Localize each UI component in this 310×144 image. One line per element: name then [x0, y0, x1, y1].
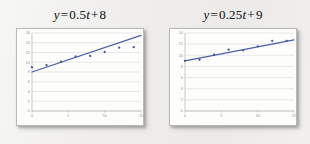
- figure-row: y=0.5t+8 0246810121416 051015 y=0.25t+9: [0, 0, 310, 144]
- data-point: [89, 55, 91, 57]
- ytick-label: 6: [28, 80, 30, 84]
- title-coefficient: 0.25: [219, 7, 243, 22]
- ytick-label: 2: [28, 100, 30, 104]
- data-points-left: [31, 46, 135, 68]
- data-point: [198, 59, 200, 61]
- xtick-label: 5: [67, 114, 69, 118]
- title-intercept: 8: [100, 7, 107, 22]
- xtick-labels-right: 051015: [184, 114, 296, 118]
- ytick-label: 4: [28, 90, 30, 94]
- ytick-label: 12: [179, 42, 183, 46]
- ytick-label: 12: [26, 51, 30, 55]
- data-point: [31, 66, 33, 68]
- axes-right: [185, 33, 294, 113]
- data-point: [242, 49, 244, 51]
- ytick-label: 14: [26, 41, 30, 45]
- title-plus: +: [90, 7, 100, 22]
- axes-left: [32, 33, 141, 113]
- data-point: [74, 55, 76, 57]
- data-point: [118, 46, 120, 48]
- ytick-label: 10: [179, 54, 183, 58]
- ytick-label: 8: [28, 70, 30, 74]
- ytick-label: 0: [181, 109, 183, 113]
- trend-line: [32, 35, 141, 72]
- data-point: [213, 54, 215, 56]
- ytick-label: 14: [179, 31, 183, 35]
- chart-title-right: y=0.25t+9: [203, 7, 262, 23]
- title-lhs: y: [54, 7, 60, 22]
- data-point: [286, 40, 288, 42]
- ytick-labels-right: 02468101214: [179, 31, 183, 113]
- figure-right: y=0.25t+9 02468101214 051015: [158, 0, 308, 126]
- title-intercept: 9: [256, 7, 263, 22]
- scatter-plot-left: 0246810121416 051015: [17, 29, 143, 125]
- xtick-label: 15: [292, 114, 296, 118]
- data-point: [104, 51, 106, 53]
- ytick-label: 2: [181, 98, 183, 102]
- data-point: [60, 61, 62, 63]
- trend-line-right: [185, 40, 294, 61]
- ytick-label: 8: [181, 65, 183, 69]
- gridlines-left: [32, 33, 141, 111]
- plot-frame-left: 0246810121416 051015: [16, 28, 144, 126]
- trend-line: [185, 40, 294, 61]
- title-plus: +: [246, 7, 256, 22]
- ytick-label: 10: [26, 61, 30, 65]
- xtick-label: 0: [184, 114, 186, 118]
- xtick-label: 10: [256, 114, 260, 118]
- title-equals: =: [209, 7, 219, 22]
- xtick-label: 15: [139, 114, 143, 118]
- data-point: [257, 45, 259, 47]
- data-point: [227, 49, 229, 51]
- data-point: [133, 46, 135, 48]
- plot-area-right: 02468101214 051015: [170, 29, 296, 125]
- ytick-label: 16: [26, 31, 30, 35]
- trend-line-left: [32, 35, 141, 72]
- plot-frame-right: 02468101214 051015: [169, 28, 297, 126]
- data-point: [271, 40, 273, 42]
- ytick-labels-left: 0246810121416: [26, 31, 30, 113]
- title-equals: =: [60, 7, 70, 22]
- plot-area-left: 0246810121416 051015: [17, 29, 143, 125]
- title-coefficient: 0.5: [69, 7, 86, 22]
- figure-left: y=0.5t+8 0246810121416 051015: [4, 0, 156, 126]
- xtick-label: 0: [31, 114, 33, 118]
- data-point: [45, 64, 47, 66]
- data-point: [184, 60, 186, 62]
- gridlines-right: [185, 33, 294, 111]
- ytick-label: 0: [28, 109, 30, 113]
- ytick-label: 4: [181, 87, 183, 91]
- xtick-labels-left: 051015: [31, 114, 143, 118]
- chart-title-left: y=0.5t+8: [54, 7, 106, 23]
- scatter-plot-right: 02468101214 051015: [170, 29, 296, 125]
- xtick-label: 5: [220, 114, 222, 118]
- xtick-label: 10: [103, 114, 107, 118]
- ytick-label: 6: [181, 76, 183, 80]
